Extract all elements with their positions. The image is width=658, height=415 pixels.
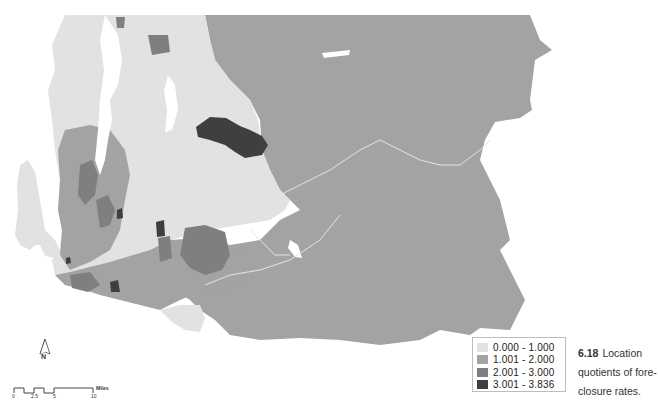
legend-item: 3.001 - 3.836 bbox=[477, 379, 561, 391]
north-arrow-icon bbox=[36, 338, 54, 364]
scale-bar-icon bbox=[12, 385, 102, 397]
legend-label: 1.001 - 2.000 bbox=[493, 354, 555, 365]
scale-unit: Miles bbox=[96, 385, 109, 391]
legend-label: 2.001 - 3.000 bbox=[493, 367, 555, 378]
region-class3-north-b bbox=[116, 17, 125, 28]
legend-label: 3.001 - 3.836 bbox=[493, 379, 555, 390]
legend-item: 0.000 - 1.000 bbox=[477, 341, 561, 353]
region-class4-south-a bbox=[156, 220, 165, 237]
legend-swatch-class1 bbox=[477, 343, 488, 352]
scale-tick-10: 10 bbox=[91, 393, 97, 399]
map-legend: 0.000 - 1.000 1.001 - 2.000 2.001 - 3.00… bbox=[472, 337, 566, 392]
legend-label: 0.000 - 1.000 bbox=[493, 342, 555, 353]
legend-swatch-class3 bbox=[477, 368, 488, 377]
scale-bar: 0 2.5 5 10 Miles bbox=[12, 383, 102, 401]
region-class3-central bbox=[158, 236, 172, 262]
scale-tick-5: 5 bbox=[53, 393, 56, 399]
legend-swatch-class4 bbox=[477, 380, 488, 389]
scale-tick-2-5: 2.5 bbox=[31, 393, 38, 399]
region-class4-south-b bbox=[117, 208, 123, 219]
legend-swatch-class2 bbox=[477, 355, 488, 364]
north-arrow: N bbox=[36, 338, 54, 368]
figure-number: 6.18 bbox=[578, 347, 598, 359]
north-label: N bbox=[41, 353, 46, 360]
region-class1-south-pocket bbox=[160, 305, 205, 332]
legend-item: 2.001 - 3.000 bbox=[477, 366, 561, 378]
legend-item: 1.001 - 2.000 bbox=[477, 354, 561, 366]
region-vashon-island bbox=[15, 160, 60, 258]
figure-caption: 6.18Location quotients of fore-closure r… bbox=[578, 344, 658, 401]
scale-tick-0: 0 bbox=[12, 393, 15, 399]
